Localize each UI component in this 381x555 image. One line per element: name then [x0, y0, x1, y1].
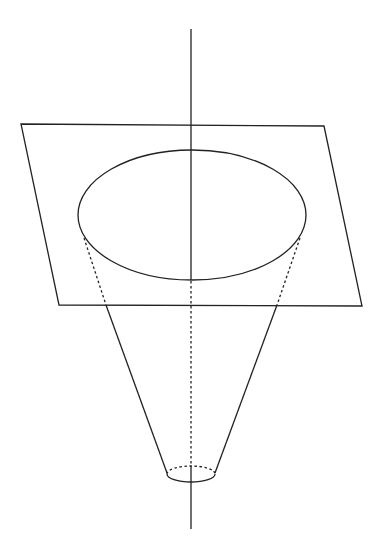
cone-left-visible — [106, 305, 167, 473]
cone-left-hidden — [84, 238, 106, 305]
cone-plane-diagram — [0, 0, 381, 555]
cone-right-visible — [215, 305, 277, 473]
large-ellipse — [78, 150, 306, 280]
cone-right-hidden — [277, 238, 300, 305]
